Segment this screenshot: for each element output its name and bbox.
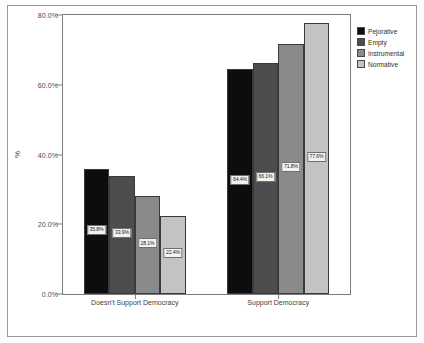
bar-value-label: 64.4% [230, 175, 249, 185]
bar-value-label: 66.1% [256, 172, 275, 182]
bar-group: 64.4%66.1%71.8%77.6% [63, 15, 350, 294]
legend-swatch-icon [357, 60, 365, 68]
bar-instrumental-support[interactable]: 71.8% [278, 44, 304, 294]
legend-swatch-icon [357, 38, 365, 46]
legend-item-instrumental[interactable]: Instrumental [357, 48, 419, 58]
plot-area: 35.8%33.9%28.1%22.4%64.4%66.1%71.8%77.6% [62, 14, 351, 295]
bar-pejorative-support[interactable]: 64.4% [227, 69, 253, 294]
bars-layer: 35.8%33.9%28.1%22.4%64.4%66.1%71.8%77.6% [63, 15, 350, 294]
legend-item-normative[interactable]: Normative [357, 59, 419, 69]
chart-legend: PejorativeEmptyInstrumentalNormative [357, 26, 419, 70]
y-axis-tick-labels: 0.0%20.0%40.0%60.0%80.0% [18, 14, 58, 295]
y-axis-tick-label: 80.0% [38, 12, 58, 19]
legend-swatch-icon [357, 27, 365, 35]
y-axis-tick-label: 60.0% [38, 81, 58, 88]
plot-inner: 35.8%33.9%28.1%22.4%64.4%66.1%71.8%77.6% [63, 15, 350, 294]
legend-label: Normative [368, 61, 398, 68]
legend-item-empty[interactable]: Empty [357, 37, 419, 47]
x-axis-category-label: Support Democracy [247, 299, 309, 306]
bar-normative-support[interactable]: 77.6% [304, 23, 330, 294]
legend-swatch-icon [357, 49, 365, 57]
x-axis-category-label: Doesn't Support Democracy [91, 299, 178, 306]
chart-figure: % 0.0%20.0%40.0%60.0%80.0% 35.8%33.9%28.… [0, 0, 424, 343]
bar-empty-support[interactable]: 66.1% [253, 63, 279, 294]
legend-label: Pejorative [368, 28, 397, 35]
legend-label: Instrumental [368, 50, 404, 57]
y-axis-tick-label: 0.0% [42, 291, 58, 298]
legend-item-pejorative[interactable]: Pejorative [357, 26, 419, 36]
bar-value-label: 71.8% [281, 162, 300, 172]
y-axis-tick-label: 20.0% [38, 221, 58, 228]
legend-label: Empty [368, 39, 387, 46]
bar-value-label: 77.6% [307, 152, 326, 162]
y-axis-tick-label: 40.0% [38, 151, 58, 158]
